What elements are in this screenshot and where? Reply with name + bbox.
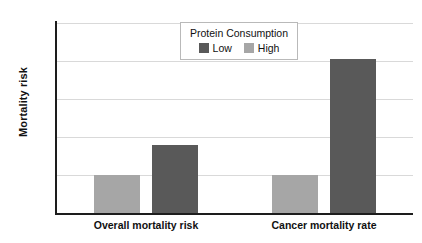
legend-label-low: Low [213,42,232,54]
x-axis-line [55,213,413,215]
legend-item-high: High [244,42,280,54]
bar-low-0 [152,145,198,213]
x-category-label: Overall mortality risk [94,219,198,231]
y-axis-title: Mortality risk [17,42,29,162]
bar-high-0 [94,175,140,213]
bar-chart: Mortality risk 012345 Overall mortality … [0,0,422,243]
legend-items: LowHigh [190,42,288,54]
legend-title: Protein Consumption [190,27,288,39]
x-category-label: Cancer mortality rate [271,219,376,231]
y-axis-line [55,21,57,215]
bar-high-1 [272,175,318,213]
legend-item-low: Low [199,42,232,54]
bar-low-1 [330,59,376,213]
legend-swatch-high [244,43,254,53]
legend: Protein Consumption LowHigh [180,22,298,60]
legend-swatch-low [199,43,209,53]
legend-label-high: High [258,42,280,54]
